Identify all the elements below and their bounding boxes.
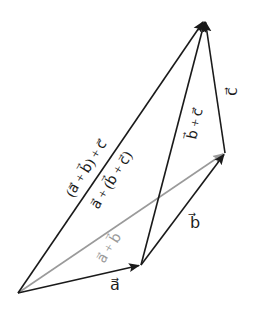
label-a: a⃗ <box>110 276 120 293</box>
label-b-plus-c: b⃗ + c⃗ <box>182 106 206 143</box>
vector-a <box>18 266 139 294</box>
label-a-plus-b: a⃗ + b⃗ <box>92 229 124 266</box>
label-c: c⃗ <box>223 87 240 96</box>
vector-b <box>141 155 224 266</box>
label-b: b⃗ <box>188 212 200 231</box>
vector-addition-diagram: a⃗ b⃗ c⃗ a⃗ + b⃗ b⃗ + c⃗ (a⃗ + b⃗) + c⃗ … <box>0 0 254 312</box>
